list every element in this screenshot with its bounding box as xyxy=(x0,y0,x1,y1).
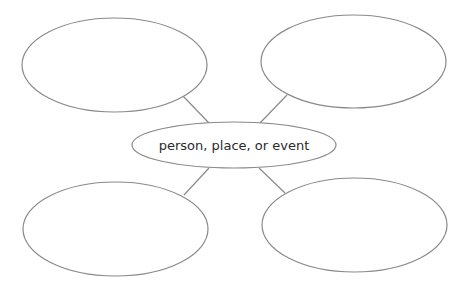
connector-top-left xyxy=(182,95,209,123)
branch-ellipse-top-left[interactable] xyxy=(22,18,207,112)
connector-bottom-right xyxy=(259,168,285,193)
branch-ellipse-bottom-right[interactable] xyxy=(262,178,447,272)
center-label: person, place, or event xyxy=(132,122,336,168)
connector-bottom-left xyxy=(184,168,209,195)
branch-ellipse-bottom-left[interactable] xyxy=(23,182,208,276)
branch-ellipse-top-right[interactable] xyxy=(261,15,446,108)
connector-top-right xyxy=(260,95,287,123)
